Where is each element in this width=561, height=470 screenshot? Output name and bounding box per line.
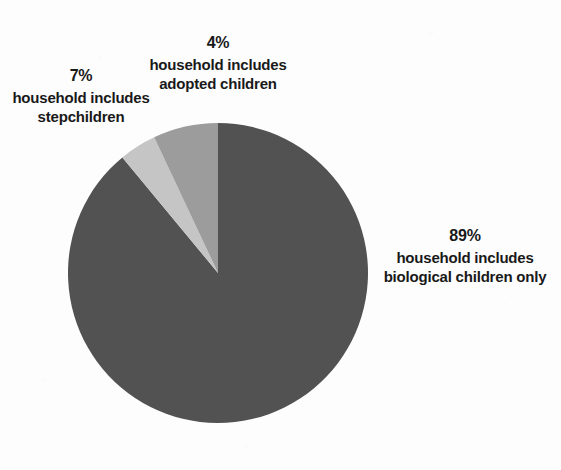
slice-label-stepchildren-line1: household includes [2,88,160,108]
pie-slice-group [68,123,368,423]
slice-label-adopted-line1: household includes [138,55,298,75]
pie-chart [68,123,368,423]
pie-chart-figure: 4% household includes adopted children 7… [0,0,561,470]
pie-svg [68,123,368,423]
slice-label-biological-line2: biological children only [376,267,554,287]
slice-label-biological-percent: 89% [376,226,554,247]
slice-label-adopted-percent: 4% [138,33,298,54]
slice-label-stepchildren: 7% household includes stepchildren [2,66,160,127]
slice-label-adopted-line2: adopted children [138,74,298,94]
slice-label-stepchildren-line2: stepchildren [2,107,160,127]
slice-label-stepchildren-percent: 7% [2,66,160,87]
slice-label-biological-line1: household includes [376,248,554,268]
slice-label-adopted: 4% household includes adopted children [138,33,298,94]
slice-label-biological: 89% household includes biological childr… [376,226,554,287]
